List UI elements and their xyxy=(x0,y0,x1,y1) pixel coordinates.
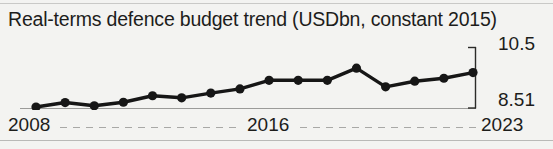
x-axis-dash-left xyxy=(60,127,242,128)
chart-figure: Real-terms defence budget trend (USDbn, … xyxy=(0,0,553,149)
data-point xyxy=(294,76,303,85)
data-point xyxy=(410,77,419,86)
x-axis: 2008 2016 2023 xyxy=(0,114,553,140)
data-point xyxy=(264,76,273,85)
y-axis-bottom-label: 8.51 xyxy=(498,89,535,111)
data-point xyxy=(90,101,99,110)
x-axis-dash-right xyxy=(300,127,478,128)
line-chart-svg xyxy=(20,44,488,110)
data-point xyxy=(381,82,390,91)
data-point xyxy=(468,68,477,77)
data-point xyxy=(148,91,157,100)
data-point xyxy=(177,93,186,102)
data-point xyxy=(31,102,40,110)
y-axis-top-label: 10.5 xyxy=(498,33,535,55)
series-markers xyxy=(31,64,477,110)
x-axis-tick-2008: 2008 xyxy=(8,114,50,136)
data-point xyxy=(352,64,361,73)
data-point xyxy=(61,98,70,107)
data-point xyxy=(119,98,128,107)
data-point xyxy=(235,84,244,93)
series-line xyxy=(36,68,473,107)
top-divider xyxy=(0,3,553,4)
bottom-divider xyxy=(0,140,553,141)
data-point xyxy=(439,74,448,83)
x-axis-tick-2023: 2023 xyxy=(481,114,523,136)
data-point xyxy=(206,88,215,97)
plot-area xyxy=(20,44,488,110)
chart-title: Real-terms defence budget trend (USDbn, … xyxy=(8,8,497,31)
data-point xyxy=(323,76,332,85)
x-axis-tick-2016: 2016 xyxy=(247,114,289,136)
